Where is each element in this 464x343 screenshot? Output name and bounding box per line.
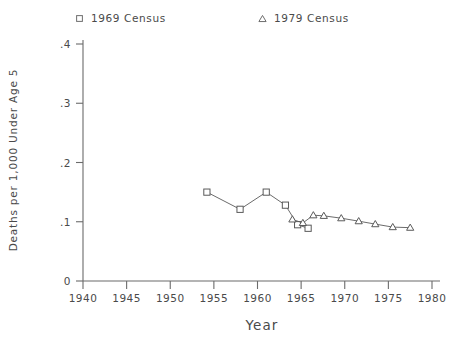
x-axis: 194019451950195519601965197019751980 bbox=[69, 281, 447, 304]
data-point-square bbox=[204, 189, 210, 195]
x-axis-title: Year bbox=[245, 317, 279, 333]
series-1969-census bbox=[204, 189, 311, 231]
data-point-square bbox=[263, 189, 269, 195]
y-axis-ticks: 0.1.2.3.4 bbox=[60, 38, 83, 287]
chart-page: 1969 Census 1979 Census 0.1.2.3.4 194019… bbox=[0, 0, 464, 343]
y-axis-title: Deaths per 1,000 Under Age 5 bbox=[7, 69, 19, 252]
data-point-square bbox=[282, 202, 288, 208]
data-point-square bbox=[237, 206, 243, 212]
chart-plot-area: 0.1.2.3.4 194019451950195519601965197019… bbox=[0, 0, 464, 343]
y-tick-label: .4 bbox=[60, 38, 71, 50]
x-axis-ticks: 194019451950195519601965197019751980 bbox=[69, 281, 447, 304]
data-point-triangle bbox=[310, 212, 317, 218]
data-point-square bbox=[305, 225, 311, 231]
data-point-triangle bbox=[289, 216, 296, 222]
y-axis: 0.1.2.3.4 bbox=[60, 38, 83, 287]
x-tick-label: 1940 bbox=[69, 292, 98, 304]
x-tick-label: 1980 bbox=[418, 292, 447, 304]
x-tick-label: 1960 bbox=[243, 292, 272, 304]
x-tick-label: 1975 bbox=[374, 292, 403, 304]
y-tick-label: 0 bbox=[64, 275, 71, 287]
x-tick-label: 1945 bbox=[112, 292, 141, 304]
x-tick-label: 1965 bbox=[287, 292, 316, 304]
x-tick-label: 1950 bbox=[156, 292, 185, 304]
x-tick-label: 1955 bbox=[200, 292, 229, 304]
x-tick-label: 1970 bbox=[330, 292, 359, 304]
y-tick-label: .3 bbox=[60, 97, 71, 109]
y-tick-label: .2 bbox=[60, 157, 71, 169]
y-tick-label: .1 bbox=[60, 216, 71, 228]
